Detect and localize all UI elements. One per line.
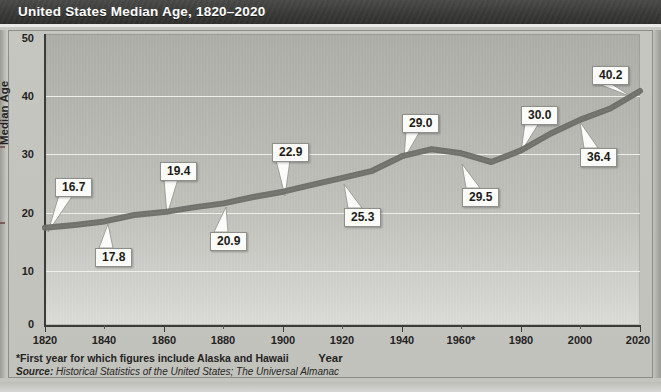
y-axis-line [44,34,46,327]
plot-area [45,34,640,325]
right-margin-edge [653,30,661,378]
value-callout: 16.7 [55,178,92,197]
source-line: Source: Historical Statistics of the Uni… [16,366,339,377]
x-tick-label-1940: 1940 [390,334,414,346]
y-axis-label: Median Age [0,81,10,145]
x-tick-label-1860: 1860 [152,334,176,346]
y-tick-50: 50 [0,32,34,44]
value-callout: 40.2 [592,66,629,85]
title-underline [0,24,661,27]
x-tick-1910 [580,325,581,329]
gridline-20 [45,213,640,214]
x-tick-label-1840: 1840 [92,334,116,346]
margin-mark-bottom [0,222,5,224]
value-callout: 20.9 [210,232,247,251]
x-tick-1820 [45,325,46,332]
value-callout: 19.4 [160,162,197,181]
x-tick-label-1820: 1820 [33,334,57,346]
x-tick-1860 [283,325,284,332]
x-tick-1890 [461,325,462,329]
x-tick-1920 [640,325,641,332]
value-callout: 30.0 [521,106,558,125]
value-callout: 29.0 [402,114,439,133]
x-tick-1850 [223,325,224,329]
value-callout: 29.5 [462,188,499,207]
x-tick-label-1900: 1900 [271,334,295,346]
value-callout: 25.3 [344,208,381,227]
x-axis-line [45,325,641,327]
x-tick-1830 [104,325,105,329]
x-tick-label-2000: 2000 [568,334,592,346]
chart-figure: United States Median Age, 1820–2020 50 4… [0,0,661,392]
x-tick-1900 [521,325,522,332]
y-tick-0: 0 [0,318,34,330]
x-tick-label-1920: 1920 [330,334,354,346]
y-tick-20: 20 [0,207,34,219]
x-tick-1840 [164,325,165,332]
x-tick-1880 [402,325,403,332]
y-tick-30: 30 [0,148,34,160]
source-label: Source: [16,366,53,377]
x-tick-label-1880: 1880 [211,334,235,346]
footnote-text: *First year for which figures include Al… [16,352,289,364]
x-tick-1870 [342,325,343,329]
x-tick-label-1960: 1960* [447,334,476,346]
value-callout: 17.8 [95,248,132,267]
gridline-40 [45,96,640,97]
plot-texture [45,34,640,325]
source-text: Historical Statistics of the United Stat… [56,366,339,377]
value-callout: 36.4 [580,148,617,167]
page-title: United States Median Age, 1820–2020 [18,4,265,19]
y-tick-10: 10 [0,265,34,277]
gridline-10 [45,271,640,272]
title-bar: United States Median Age, 1820–2020 [0,0,661,24]
x-tick-label-2020: 2020 [626,334,650,346]
value-callout: 22.9 [272,143,309,162]
x-tick-label-1980: 1980 [509,334,533,346]
bottom-margin-edge [0,382,661,392]
gridline-30 [45,154,640,155]
